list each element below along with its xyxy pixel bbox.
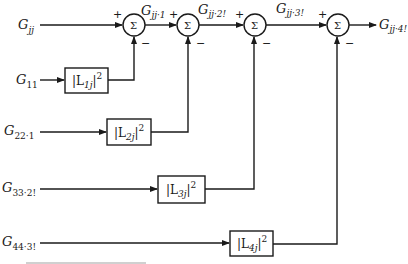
minus-sign-4: −	[345, 37, 354, 50]
block-label-l3: |L3j|2	[166, 180, 196, 199]
feedback-line-3	[205, 37, 254, 189]
sigma-icon-4: Σ	[334, 20, 341, 31]
minus-sign-3: −	[262, 37, 271, 50]
plus-sign-4: +	[318, 8, 327, 21]
signal-label-gjj-3: Gjj·3!	[276, 1, 305, 18]
input-label-gjj: Gjj	[18, 17, 34, 35]
feedback-line-1	[108, 37, 134, 80]
minus-sign-1: −	[141, 37, 150, 50]
plus-sign-1: +	[113, 8, 122, 21]
sigma-icon-1: Σ	[130, 20, 137, 31]
input-label-g33-2: G33·2!	[2, 180, 36, 198]
signal-label-gjj-1: Gjj·1	[141, 3, 166, 20]
block-label-l1: |L1j|2	[72, 71, 102, 90]
block-label-l4: |L4j|2	[237, 234, 267, 253]
input-label-g22-1: G22·1	[4, 123, 34, 141]
sigma-icon-3: Σ	[251, 20, 258, 31]
plus-sign-3: +	[235, 8, 244, 21]
plus-sign-2: +	[169, 8, 178, 21]
block-diagram: Gjj G11 G22·1 G33·2! G44·3! |L1j|2 |L2j|…	[0, 0, 408, 264]
block-label-l2: |L2j|2	[114, 123, 144, 142]
input-label-g11: G11	[16, 72, 38, 90]
input-label-g44-3: G44·3!	[2, 234, 36, 252]
feedback-line-4	[273, 37, 337, 244]
feedback-line-2	[151, 37, 188, 132]
signal-label-gjj-2: Gjj·2!	[198, 2, 227, 19]
sigma-icon-2: Σ	[184, 20, 191, 31]
output-label-gjj-4: Gjj·4!	[379, 17, 408, 34]
minus-sign-2: −	[196, 37, 205, 50]
